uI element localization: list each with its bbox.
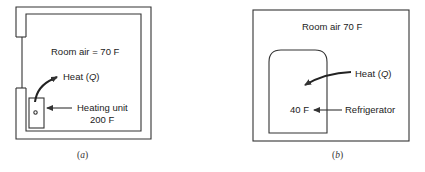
refrigerator-body <box>269 50 327 133</box>
heating-unit-knob-icon <box>34 111 37 114</box>
heat-flow-arrow <box>305 72 351 85</box>
room-air-label: Room air 70 F <box>302 21 362 32</box>
heat-label: Heat (Q) <box>355 68 391 79</box>
diagram-canvas: Room air = 70 F Heat (Q) Heating unit 20… <box>0 0 425 172</box>
panel-a: Room air = 70 F Heat (Q) Heating unit 20… <box>16 7 151 161</box>
heat-label: Heat (Q) <box>63 71 99 82</box>
caption-a: (a) <box>77 150 88 161</box>
refrigerator-label: Refrigerator <box>345 104 395 115</box>
heating-unit-box <box>29 98 44 128</box>
heating-unit-label: Heating unit <box>77 102 128 113</box>
fridge-temp: 40 F <box>290 104 309 115</box>
room-air-label: Room air = 70 F <box>51 46 120 57</box>
heating-unit-temp: 200 F <box>90 114 114 125</box>
caption-b: (b) <box>332 150 343 161</box>
panel-b: Room air 70 F Heat (Q) 40 F Refrigerator… <box>253 10 409 161</box>
